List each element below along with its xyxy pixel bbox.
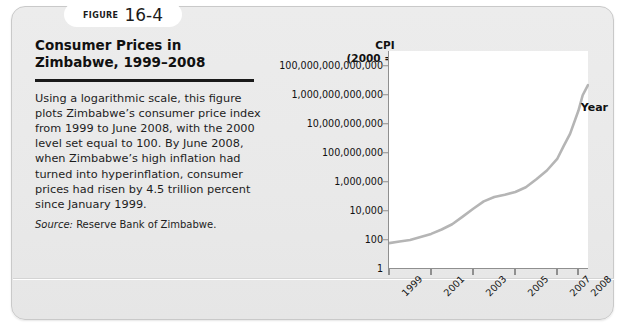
- x-axis-title: Year: [581, 101, 608, 114]
- chart-region: CPI (2000 = 100) 110010,0001,000,000100,…: [270, 39, 610, 279]
- x-axis-tick: [472, 269, 474, 275]
- cpi-series-line: [389, 85, 588, 243]
- figure-label-word: Figure: [83, 8, 119, 21]
- y-axis-label: 100,000,000: [153, 148, 383, 158]
- x-axis-label: 1999: [400, 274, 424, 298]
- source-text: Reserve Bank of Zimbabwe.: [76, 219, 216, 230]
- cpi-line-chart: [389, 51, 589, 269]
- x-axis-tick: [577, 269, 579, 275]
- y-axis-label: 10,000,000,000: [153, 119, 383, 129]
- figure-number-badge: Figure 16-4: [64, 2, 182, 27]
- x-axis-tick: [556, 269, 558, 275]
- y-axis-label: 100,000,000,000,000: [153, 61, 383, 71]
- figure-source: Source: Reserve Bank of Zimbabwe.: [35, 218, 263, 231]
- x-axis-label: 2008: [590, 274, 614, 298]
- y-axis-label: 1,000,000,000,000: [153, 90, 383, 100]
- figure-card: Figure 16-4 Consumer Prices in Zimbabwe,…: [11, 6, 614, 320]
- source-label: Source:: [35, 219, 73, 230]
- y-axis-label: 10,000: [153, 206, 383, 216]
- x-axis-tick: [388, 269, 390, 275]
- x-axis-tick: [430, 269, 432, 275]
- plot-area: [388, 51, 588, 269]
- x-axis-label: 2001: [442, 274, 466, 298]
- x-axis-tick: [514, 269, 516, 275]
- y-axis-label: 1,000,000: [153, 177, 383, 187]
- title-divider-rule: [35, 79, 254, 82]
- x-axis-label: 2005: [526, 274, 550, 298]
- y-axis-label: 1: [153, 264, 383, 274]
- x-axis-label: 2007: [569, 274, 593, 298]
- x-axis-label: 2003: [484, 274, 508, 298]
- y-axis-label: 100: [153, 235, 383, 245]
- figure-number: 16-4: [124, 5, 163, 25]
